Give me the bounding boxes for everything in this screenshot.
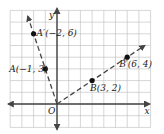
- x-axis-label: x: [145, 106, 150, 116]
- coordinate-plane: A(−1, 3)A′(−2, 6)B(3, 2)B′(6, 4) x y O: [0, 0, 164, 134]
- y-axis-label: y: [48, 10, 55, 20]
- ray-2: [57, 46, 145, 105]
- point-label-b-prime: B′(6, 4): [118, 59, 152, 69]
- point-label-a-prime: A′(−2, 6): [36, 28, 78, 38]
- point-a-prime: [31, 31, 36, 36]
- origin-label: O: [48, 106, 56, 116]
- point-label-b: B(3, 2): [89, 83, 121, 93]
- point-label-a: A(−1, 3): [8, 64, 48, 74]
